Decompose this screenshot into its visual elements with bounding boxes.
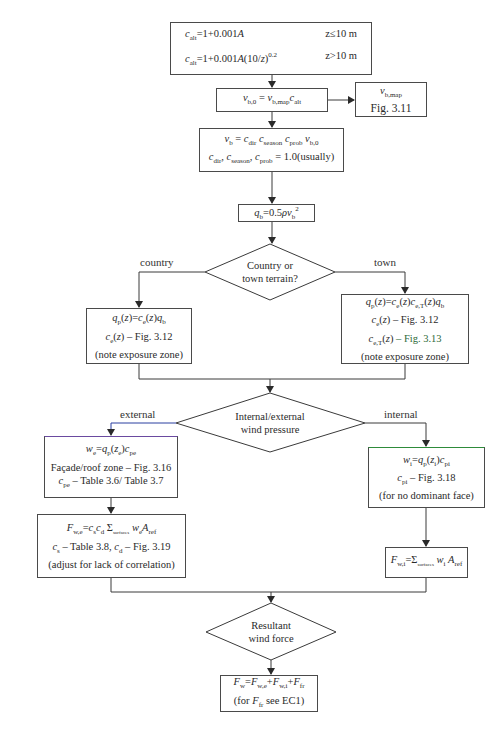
v-bmap-box: vb,map Fig. 3.11 (355, 82, 427, 117)
edge-label-internal: internal (384, 408, 418, 420)
edge-label-country: country (140, 256, 174, 268)
v-b0-box: vb,0 = vb,mapcalt (216, 88, 328, 112)
c-alt-eq-low: calt=1+0.001A (185, 27, 244, 45)
external-force-box: Fw,e=cscd Σsurfaces weAref cs – Table 3.… (37, 514, 186, 578)
internal-pressure-box: wi=qp(zi)cpi cpi – Fig. 3.18 (for no dom… (368, 447, 485, 508)
pressure-decision: Internal/external wind pressure (200, 409, 340, 437)
resultant-decision: Resultant wind force (221, 618, 321, 646)
c-alt-eq-high: calt=1+0.001A(10/z)0.2 (185, 49, 277, 70)
edge-label-town: town (374, 256, 396, 268)
edge-label-external: external (120, 408, 155, 420)
c-alt-cond-high: z>10 m (325, 49, 357, 70)
c-alt-cond-low: z≤10 m (325, 27, 357, 45)
v-b-box: vb = cdir cseason cprob vb,0 cdir, cseas… (199, 128, 344, 172)
q-b-box: qb=0.5ρvb2 (238, 204, 315, 222)
final-force-box: Fw=Fw,e+Fw,i+Ffr (for Ffr see EC1) (220, 675, 318, 712)
town-box: qp(z)=ce(z)ce,T(z)qb ce(z) – Fig. 3.12 c… (341, 294, 469, 364)
c-alt-box: calt=1+0.001A z≤10 m calt=1+0.001A(10/z)… (170, 22, 372, 75)
external-pressure-box: we=qp(ze)cpe Façade/roof zone – Fig. 3.1… (44, 436, 178, 498)
terrain-decision: Country or town terrain? (215, 258, 325, 286)
country-box: qp(z)=ce(z)qb ce(z) – Fig. 3.12 (note ex… (86, 308, 192, 364)
internal-force-box: Fw,i=Σsurfaces wi Aref (385, 547, 468, 578)
